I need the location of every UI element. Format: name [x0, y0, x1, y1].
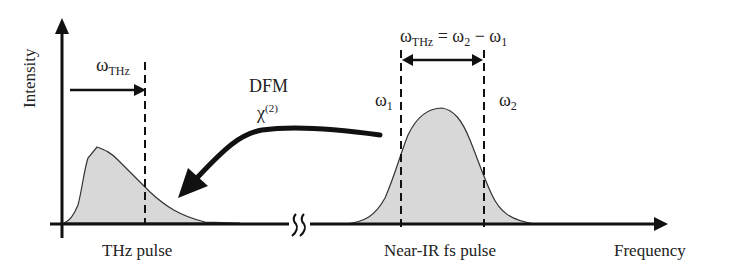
near-ir-pulse-label: Near-IR fs pulse — [384, 241, 496, 261]
chi2-label: χ(2) — [257, 103, 278, 124]
omega2-label: ω2 — [499, 90, 517, 111]
omega-difference-right-arrowhead-icon — [472, 54, 483, 66]
dfm-curved-arrow — [195, 128, 380, 180]
omega-thz-equation: ωTHz = ω2 − ω1 — [400, 26, 507, 47]
axis-break-icon — [292, 214, 305, 236]
y-axis-arrowhead-icon — [55, 18, 69, 34]
x-axis-arrowhead-icon — [654, 217, 668, 231]
dfm-label: DFM — [249, 76, 288, 97]
near-ir-pulse-curve — [345, 108, 535, 224]
y-axis-label: Intensity — [20, 49, 40, 109]
dfm-diagram — [0, 0, 732, 276]
omega-difference-left-arrowhead-icon — [402, 54, 413, 66]
thz-pulse-label: THz pulse — [102, 241, 172, 261]
omega-thz-label: ωTHz — [96, 54, 130, 76]
x-axis-label: Frequency — [614, 241, 686, 261]
omega1-label: ω1 — [375, 90, 393, 111]
